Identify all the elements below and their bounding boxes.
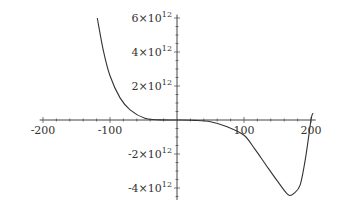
y-tick-label: 4×1012 <box>132 44 172 59</box>
line-chart: -200-1001002006×10124×10122×1012-2×1012-… <box>0 0 345 208</box>
y-tick-label: -4×1012 <box>128 180 172 195</box>
y-tick-label: 6×1012 <box>132 10 172 25</box>
y-tick-label: -2×1012 <box>128 146 172 161</box>
x-tick-label: -200 <box>31 124 56 137</box>
x-tick-label: -100 <box>98 124 123 137</box>
tick-labels: -200-1001002006×10124×10122×1012-2×1012-… <box>31 10 322 195</box>
data-curve <box>97 18 313 196</box>
y-tick-label: 2×1012 <box>132 78 172 93</box>
axes <box>40 15 316 200</box>
x-tick-label: 200 <box>301 124 322 137</box>
